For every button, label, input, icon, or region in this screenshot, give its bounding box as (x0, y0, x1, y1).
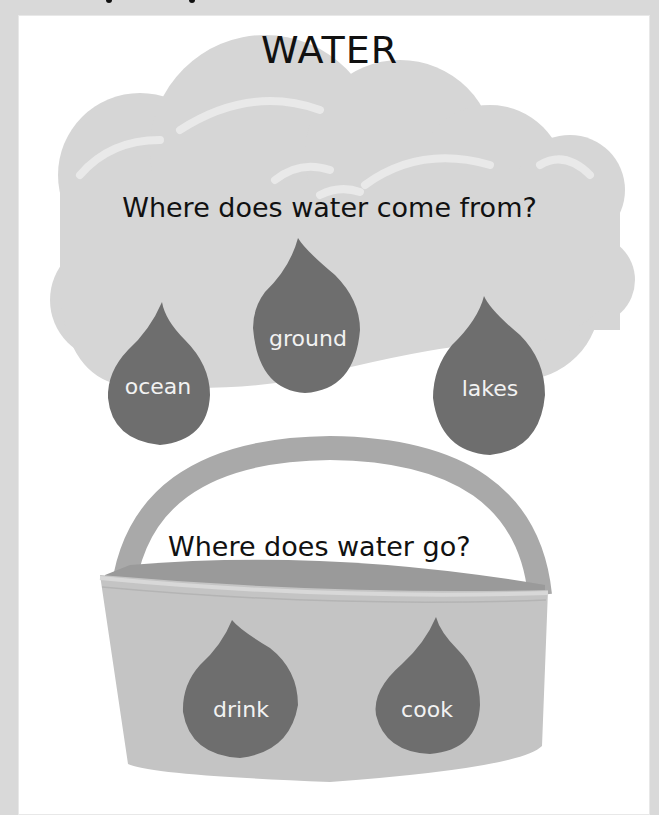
sources-question: Where does water come from? (0, 192, 659, 223)
drop-label-cook: cook (367, 697, 487, 722)
drop-label-lakes: lakes (430, 376, 550, 401)
drop-label-ocean: ocean (98, 374, 218, 399)
drop-label-ground: ground (248, 326, 368, 351)
page-title: WATER (0, 28, 659, 72)
drop-label-drink: drink (181, 697, 301, 722)
uses-question: Where does water go? (168, 531, 471, 562)
bucket-body (100, 575, 548, 782)
